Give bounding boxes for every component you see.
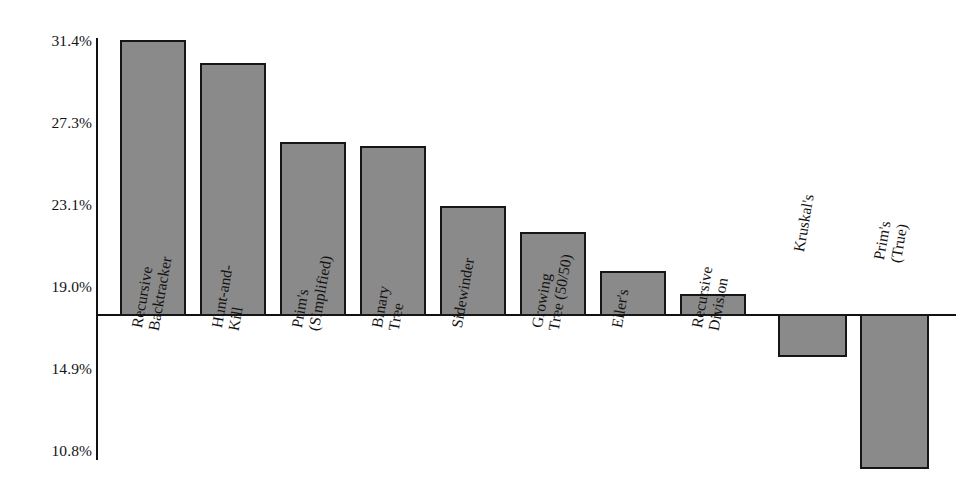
bar-prims-true bbox=[860, 314, 929, 469]
y-axis-tick-label: 27.3% bbox=[4, 115, 92, 131]
plot-area bbox=[96, 0, 980, 501]
bar-chart: 31.4% 27.3% 23.1% 19.0% 14.9% 10.8% Recu… bbox=[0, 0, 980, 501]
y-axis-tick-label: 23.1% bbox=[4, 197, 92, 213]
y-axis-tick-labels: 31.4% 27.3% 23.1% 19.0% 14.9% 10.8% bbox=[0, 0, 92, 501]
x-axis-label-binary-tree: Binary Tree bbox=[368, 284, 410, 332]
y-axis-tick-label: 19.0% bbox=[4, 279, 92, 295]
bar-kruskals bbox=[778, 314, 847, 357]
y-axis-tick-label: 14.9% bbox=[4, 361, 92, 377]
x-axis-label-prims-true: Prim's (True) bbox=[870, 220, 911, 264]
y-axis-tick-label: 10.8% bbox=[4, 443, 92, 459]
y-axis-tick-label: 31.4% bbox=[4, 33, 92, 49]
